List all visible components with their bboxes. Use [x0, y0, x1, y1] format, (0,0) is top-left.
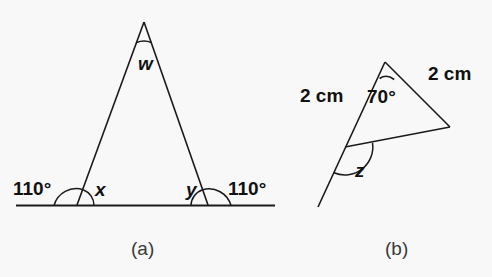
- panel-b-right-side-length-label: 2 cm: [428, 64, 471, 83]
- panel-a-exterior-angle-arc-left: [54, 189, 83, 206]
- panel-a-interior-left-label: x: [95, 180, 106, 199]
- panel-a-interior-angle-arc-x: [83, 190, 94, 206]
- panel-b-base-side: [345, 127, 450, 147]
- geometry-figure: w 110° x y 110° (a) 2 cm 2 cm 70° z (b): [0, 0, 492, 277]
- panel-b-caption: (b): [385, 239, 408, 258]
- panel-a-right-side: [144, 22, 208, 205]
- panel-a-apex-angle-arc: [137, 41, 152, 42]
- panel-a-apex-angle-label: w: [138, 54, 153, 73]
- figure-canvas: [0, 0, 492, 277]
- panel-a-left-side: [77, 22, 144, 205]
- panel-a-caption: (a): [131, 239, 154, 258]
- panel-b-left-side-length-label: 2 cm: [300, 86, 343, 105]
- panel-b-exterior-angle-label: z: [355, 161, 365, 180]
- panel-a-exterior-right-label: 110°: [228, 179, 266, 198]
- panel-a-interior-right-label: y: [186, 180, 197, 199]
- panel-b-apex-angle-arc: [380, 76, 395, 79]
- panel-a-exterior-left-label: 110°: [13, 179, 51, 198]
- panel-b-left-side-extended: [318, 62, 385, 207]
- panel-b-apex-angle-label: 70°: [367, 87, 396, 106]
